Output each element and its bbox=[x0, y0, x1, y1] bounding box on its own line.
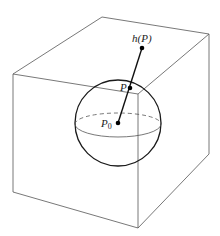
cube-sphere-diagram: h(P) P P0 bbox=[0, 0, 220, 236]
label-h-of-p: h(P) bbox=[132, 32, 152, 45]
point-h-of-p bbox=[140, 46, 145, 51]
cube-right-face bbox=[138, 34, 209, 228]
point-p0 bbox=[116, 121, 121, 126]
label-p0: P0 bbox=[100, 117, 112, 131]
cube-top-face bbox=[13, 17, 209, 94]
label-p0-subscript: 0 bbox=[108, 122, 112, 131]
point-p bbox=[128, 86, 133, 91]
cube-front-face bbox=[13, 74, 138, 228]
label-p: P bbox=[119, 81, 127, 93]
sphere-equator-front bbox=[75, 124, 161, 137]
